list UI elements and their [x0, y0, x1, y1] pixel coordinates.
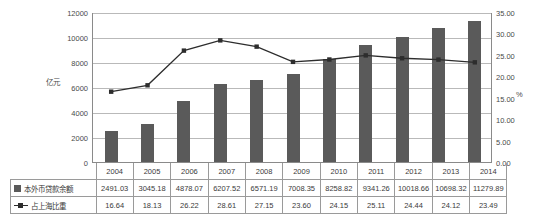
table-cell: 7008.35 — [283, 180, 320, 197]
data-table-body: 2004200520062007200820092010201120122013… — [11, 163, 507, 214]
plot-frame — [92, 13, 492, 163]
table-cell: 16.64 — [96, 197, 133, 214]
line-marker — [291, 60, 295, 64]
line-marker — [109, 89, 113, 93]
table-corner-cell — [11, 163, 97, 180]
left-axis-unit: 亿元 — [46, 76, 60, 87]
table-row: 占上海比重16.6418.1326.2228.6127.1523.6024.15… — [11, 197, 507, 214]
line-marker — [400, 56, 404, 60]
table-cell: 11279.89 — [470, 180, 507, 197]
table-cell: 9341.26 — [358, 180, 395, 197]
left-axis-tick: 12000 — [67, 9, 88, 18]
table-header-year: 2004 — [96, 163, 133, 180]
line-marker — [145, 83, 149, 87]
line-marker — [182, 48, 186, 52]
table-cell: 23.49 — [470, 197, 507, 214]
chart-page: 120001000080006000400020000 亿元 35.0030.0… — [0, 0, 533, 217]
legend-marker-icon — [18, 203, 23, 208]
table-cell: 24.12 — [432, 197, 469, 214]
right-axis-unit: % — [516, 90, 523, 99]
table-cell: 18.13 — [133, 197, 170, 214]
table-cell: 23.60 — [283, 197, 320, 214]
right-axis-tick: 15.00 — [496, 94, 515, 103]
table-row-label: 本外币贷款余额 — [11, 180, 97, 197]
right-axis: 35.0030.0025.0020.0015.0010.005.000.00 — [496, 13, 533, 163]
table-header-year: 2014 — [470, 163, 507, 180]
left-axis: 120001000080006000400020000 — [0, 13, 88, 163]
right-axis-tick: 25.00 — [496, 51, 515, 60]
table-cell: 8258.82 — [320, 180, 357, 197]
table-header-year: 2010 — [320, 163, 357, 180]
table-row-label-text: 本外币贷款余额 — [24, 183, 73, 194]
table-header-year: 2009 — [283, 163, 320, 180]
line-series — [93, 13, 493, 163]
table-cell: 28.61 — [208, 197, 245, 214]
left-axis-tick: 10000 — [67, 34, 88, 43]
left-axis-tick: 6000 — [71, 84, 88, 93]
table-cell: 10698.32 — [432, 180, 469, 197]
data-table: 2004200520062007200820092010201120122013… — [10, 163, 507, 214]
right-axis-tick: 10.00 — [496, 116, 515, 125]
table-cell: 24.15 — [320, 197, 357, 214]
line-marker — [327, 57, 331, 61]
table-header-year: 2013 — [432, 163, 469, 180]
table-cell: 6571.19 — [245, 180, 282, 197]
table-cell: 10018.66 — [395, 180, 432, 197]
table-cell: 26.22 — [171, 197, 208, 214]
table-cell: 24.44 — [395, 197, 432, 214]
table-header-year: 2007 — [208, 163, 245, 180]
table-header-year: 2011 — [358, 163, 395, 180]
line-marker — [254, 44, 258, 48]
line-marker — [436, 57, 440, 61]
right-axis-tick: 30.00 — [496, 30, 515, 39]
right-axis-tick: 20.00 — [496, 73, 515, 82]
table-cell: 27.15 — [245, 197, 282, 214]
table-header-year: 2006 — [171, 163, 208, 180]
left-axis-tick: 8000 — [71, 59, 88, 68]
line-marker — [473, 60, 477, 64]
line-marker — [218, 38, 222, 42]
table-header-year: 2005 — [133, 163, 170, 180]
table-cell: 3045.18 — [133, 180, 170, 197]
table-header-year: 2008 — [245, 163, 282, 180]
table-cell: 2491.03 — [96, 180, 133, 197]
right-axis-tick: 35.00 — [496, 9, 515, 18]
table-cell: 4878.07 — [171, 180, 208, 197]
table-row-label: 占上海比重 — [11, 197, 97, 214]
table-cell: 6207.52 — [208, 180, 245, 197]
line-marker — [364, 53, 368, 57]
legend-square-icon — [14, 185, 21, 192]
table-row-years: 2004200520062007200820092010201120122013… — [11, 163, 507, 180]
legend-line-marker-icon — [14, 202, 28, 209]
table-cell: 25.11 — [358, 197, 395, 214]
line-path — [111, 40, 475, 91]
left-axis-tick: 4000 — [71, 109, 88, 118]
right-axis-tick: 5.00 — [496, 137, 511, 146]
table-row: 本外币贷款余额2491.033045.184878.076207.526571.… — [11, 180, 507, 197]
table-header-year: 2012 — [395, 163, 432, 180]
chart-plot-area: 120001000080006000400020000 亿元 35.0030.0… — [0, 0, 533, 165]
left-axis-tick: 2000 — [71, 134, 88, 143]
table-row-label-text: 占上海比重 — [31, 200, 66, 211]
